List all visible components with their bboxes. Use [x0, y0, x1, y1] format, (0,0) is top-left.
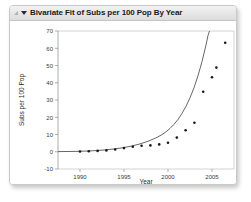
data-point	[88, 150, 91, 153]
x-axis-title: Year	[139, 178, 153, 184]
disclosure-triangle-icon[interactable]	[21, 11, 27, 15]
screenshot-root: Bivariate Fit of Subs per 100 Pop By Yea…	[0, 0, 251, 202]
window-title: Bivariate Fit of Subs per 100 Pop By Yea…	[30, 9, 182, 17]
data-point	[140, 145, 143, 148]
data-point	[224, 42, 227, 45]
data-point	[132, 145, 135, 148]
svg-text:30: 30	[46, 97, 53, 103]
window-titlebar[interactable]: Bivariate Fit of Subs per 100 Pop By Yea…	[10, 6, 236, 21]
data-point	[79, 150, 82, 153]
svg-text:50: 50	[46, 63, 53, 69]
svg-text:70: 70	[46, 28, 53, 34]
data-point	[202, 91, 205, 94]
y-axis-ticks: 70 60 50 40 30 20 10 0 -	[44, 28, 58, 172]
svg-text:2000: 2000	[161, 174, 175, 180]
svg-text:0: 0	[50, 149, 54, 155]
svg-text:10: 10	[46, 132, 53, 138]
data-point	[114, 148, 117, 151]
data-point	[193, 122, 196, 125]
data-point	[96, 150, 99, 153]
plot-frame	[58, 31, 234, 169]
chart-window-panel: Bivariate Fit of Subs per 100 Pop By Yea…	[9, 5, 237, 185]
data-point	[105, 149, 108, 152]
data-point	[149, 144, 152, 147]
bivariate-fit-chart: 70 60 50 40 30 20 10 0 -	[10, 21, 236, 184]
svg-text:20: 20	[46, 115, 53, 121]
data-point	[211, 76, 214, 79]
resize-grip-icon	[14, 11, 18, 15]
data-point	[184, 129, 187, 132]
svg-text:40: 40	[46, 80, 53, 86]
data-point	[167, 142, 170, 145]
fit-curve-line	[58, 31, 210, 152]
svg-text:-10: -10	[44, 166, 53, 172]
data-point	[215, 66, 218, 69]
y-axis-title: Subs per 100 Pop	[18, 74, 26, 126]
svg-text:1990: 1990	[73, 174, 87, 180]
svg-text:2005: 2005	[205, 174, 219, 180]
svg-text:60: 60	[46, 46, 53, 52]
chart-area: 70 60 50 40 30 20 10 0 -	[10, 21, 236, 184]
data-point	[158, 143, 161, 146]
data-point	[123, 147, 126, 150]
data-point	[176, 136, 179, 139]
svg-text:1995: 1995	[117, 174, 131, 180]
data-points	[79, 42, 227, 153]
